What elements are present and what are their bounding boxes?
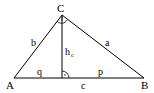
- side-a-line: [62, 15, 144, 78]
- triangle-diagram: C A B b a c h c q p: [0, 0, 154, 93]
- vertex-label-b: B: [141, 79, 148, 91]
- side-label-b: b: [31, 37, 36, 48]
- vertex-label-a: A: [6, 79, 14, 91]
- altitude-label-subscript: c: [71, 52, 74, 58]
- triangle-svg: C A B b a c h c q p: [0, 0, 154, 93]
- right-angle-arc-foot: [62, 71, 69, 78]
- segment-label-p: p: [98, 66, 103, 77]
- segment-label-q: q: [37, 66, 42, 77]
- vertex-label-c: C: [57, 2, 64, 14]
- altitude-label-h: h: [65, 46, 70, 57]
- right-angle-dot: [64, 74, 65, 75]
- side-label-a: a: [105, 37, 110, 48]
- side-label-c: c: [81, 80, 86, 91]
